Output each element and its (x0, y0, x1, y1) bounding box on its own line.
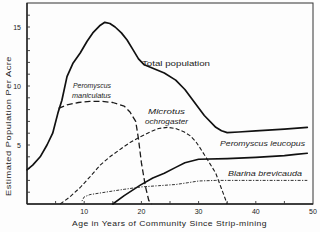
y-axis-title: Estimated Population Per Acre (4, 56, 13, 196)
x-ticks: 1020304050 (56, 201, 317, 215)
x-tick-label: 20 (138, 208, 146, 215)
x-tick-label: 40 (252, 208, 260, 215)
y-tick-label: 10 (13, 83, 21, 90)
x-axis-title: Age in Years of Community Since Strip-mi… (72, 219, 267, 228)
series-total-population (27, 22, 307, 170)
y-tick-label: 5 (17, 142, 21, 149)
series-peromyscus-maniculatus (59, 101, 152, 204)
label-maniculatus-line1: Peromyscus (73, 82, 111, 90)
series-blarina-brevicauda (82, 180, 307, 201)
label-maniculatus-line2: maniculatus (72, 92, 112, 99)
label-microtus-line2: ochrogaster (145, 118, 189, 126)
label-microtus-line1: Microtus (148, 108, 186, 115)
x-tick-label: 50 (309, 208, 317, 215)
label-blarina-brevicauda: Blarina brevicauda (228, 170, 302, 177)
population-chart: 51015 1020304050 Total population Peromy… (0, 0, 320, 232)
series-microtus-ochrogaster (60, 127, 227, 204)
label-total-population: Total population (142, 60, 210, 68)
series-peromyscus-leucopus (113, 153, 307, 204)
label-peromyscus-leucopus: Peromyscus leucopus (220, 140, 306, 148)
x-tick-label: 10 (80, 208, 88, 215)
y-tick-label: 15 (13, 24, 21, 31)
x-tick-label: 30 (195, 208, 203, 215)
